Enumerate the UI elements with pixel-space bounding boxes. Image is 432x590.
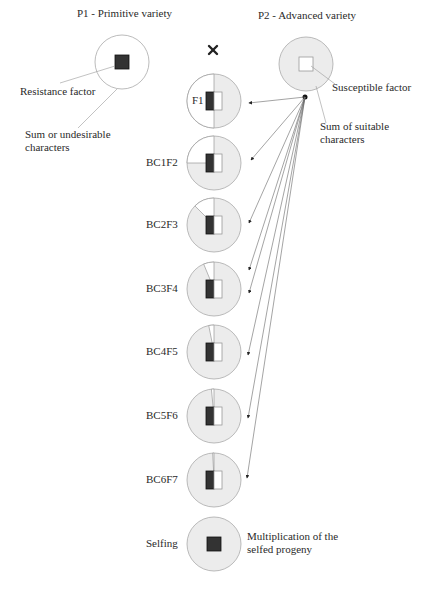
p1-title: P1 - Primitive variety — [77, 7, 172, 20]
generation-circle-bc6f7 — [187, 453, 241, 507]
susceptible-factor-square — [299, 57, 313, 71]
generation-label: BC2F3 — [146, 218, 178, 231]
generation-circle-bc3f4 — [187, 262, 241, 316]
susceptible-factor-label: Susceptible factor — [332, 81, 411, 94]
p2-title: P2 - Advanced variety — [258, 9, 356, 22]
generation-label: BC5F6 — [146, 409, 178, 422]
generation-circle-bc1f2 — [187, 136, 241, 190]
generation-circle-bc4f5 — [187, 325, 241, 379]
resistance-factor-square — [115, 55, 129, 69]
suitable-label-1: Sum of suitable — [320, 120, 389, 133]
selfing-circle — [187, 517, 241, 571]
selfing-note-1: Multiplication of the — [247, 530, 338, 543]
arrows — [247, 97, 305, 478]
suitable-label-2: characters — [320, 133, 365, 146]
generation-label: BC1F2 — [146, 156, 178, 169]
undesirable-label-2: characters — [25, 141, 70, 154]
generation-circle-bc5f6 — [187, 389, 241, 443]
selfing-label: Selfing — [146, 537, 178, 550]
generation-label: F1 — [192, 94, 204, 107]
selfing-note-2: selfed progeny — [247, 543, 312, 556]
generation-label: BC3F4 — [146, 282, 178, 295]
resistance-factor-label: Resistance factor — [20, 85, 95, 98]
generation-circle-bc2f3 — [187, 198, 241, 252]
undesirable-label-1: Sum or undesirable — [25, 128, 111, 141]
generation-label: BC6F7 — [146, 473, 178, 486]
generation-label: BC4F5 — [146, 345, 178, 358]
cross-icon — [209, 46, 217, 54]
p2-circle — [279, 37, 335, 123]
p1-circle — [60, 35, 149, 128]
